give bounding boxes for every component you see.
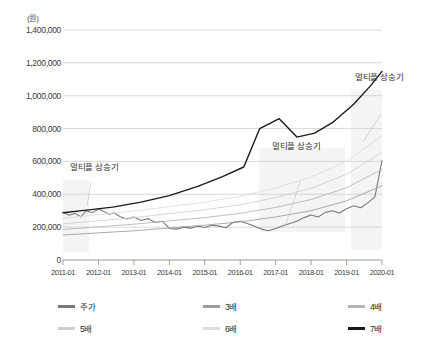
x-tick-2014-01: 2014-01 (157, 268, 182, 277)
legend-swatch-icon (203, 305, 220, 308)
y-tick-600,000: 600,000 (3, 156, 61, 166)
annotation-multiple-expansion-1: 멀티플 상승기 (70, 160, 118, 172)
chart-container: (원) 1,400,0001,200,0001,000,000800,00060… (0, 0, 435, 348)
x-tick-2013-01: 2013-01 (122, 268, 147, 277)
x-tick-2020-01: 2020-01 (370, 268, 395, 277)
y-tick-1,400,000: 1,400,000 (3, 25, 61, 35)
x-axis-tick-labels: 2011-012012-012013-012014-012015-012016-… (63, 268, 382, 284)
legend-swatch-icon (348, 305, 365, 308)
legend-item-4배[interactable]: 4배 (290, 296, 435, 316)
legend-item-7배[interactable]: 7배 (290, 318, 435, 338)
plot-area (63, 30, 382, 260)
legend-label: 주가 (80, 300, 95, 312)
y-tick-200,000: 200,000 (3, 222, 61, 232)
legend-swatch-icon (203, 327, 220, 330)
y-tick-1,200,000: 1,200,000 (3, 58, 61, 68)
highlight-band-2 (351, 90, 382, 250)
legend-item-5배[interactable]: 5배 (0, 318, 145, 338)
highlight-band-1 (259, 148, 345, 232)
y-tick-1,000,000: 1,000,000 (3, 91, 61, 101)
x-tick-2016-01: 2016-01 (228, 268, 253, 277)
legend-label: 5배 (80, 322, 92, 334)
legend-swatch-icon (58, 305, 75, 308)
chart-svg (63, 30, 382, 260)
x-tick-2017-01: 2017-01 (263, 268, 288, 277)
annotation-multiple-expansion-2: 멀티플 상승기 (272, 139, 320, 151)
annotation-multiple-expansion-3: 멀티플 상승기 (355, 70, 403, 82)
legend-swatch-icon (58, 327, 75, 330)
legend-label: 6배 (225, 322, 237, 334)
legend-swatch-icon (348, 327, 365, 330)
legend-item-6배[interactable]: 6배 (145, 318, 290, 338)
chart-legend: 주가3배4배5배6배7배 (0, 296, 435, 344)
legend-row: 주가3배4배 (0, 296, 435, 316)
x-tick-2015-01: 2015-01 (192, 268, 217, 277)
x-tick-2018-01: 2018-01 (299, 268, 324, 277)
legend-item-주가[interactable]: 주가 (0, 296, 145, 316)
legend-label: 4배 (370, 300, 382, 312)
legend-label: 3배 (225, 300, 237, 312)
x-tick-2012-01: 2012-01 (86, 268, 111, 277)
legend-row: 5배6배7배 (0, 318, 435, 338)
y-tick-0: 0 (3, 255, 61, 265)
x-tick-2011-01: 2011-01 (51, 268, 75, 277)
legend-label: 7배 (370, 322, 382, 334)
y-tick-800,000: 800,000 (3, 124, 61, 134)
y-tick-400,000: 400,000 (3, 189, 61, 199)
x-tick-2019-01: 2019-01 (334, 268, 359, 277)
legend-item-3배[interactable]: 3배 (145, 296, 290, 316)
